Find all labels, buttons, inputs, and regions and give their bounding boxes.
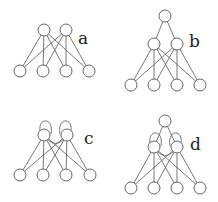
input-node	[171, 182, 183, 194]
input-node	[37, 65, 49, 77]
top-node	[159, 10, 171, 22]
hidden-node	[148, 38, 160, 50]
input-node	[194, 182, 206, 194]
hidden-node	[38, 24, 50, 36]
hidden-node	[171, 141, 183, 153]
input-node	[14, 65, 26, 77]
panel-label: d	[190, 134, 201, 154]
panel-c: c	[14, 121, 96, 181]
edge	[131, 44, 154, 85]
panel-label: b	[189, 31, 200, 51]
panel-d: d	[125, 115, 206, 194]
panel-label: c	[84, 128, 94, 148]
input-node	[83, 65, 95, 77]
edge	[43, 135, 67, 175]
input-node	[194, 79, 206, 91]
hidden-node	[38, 129, 50, 141]
input-node	[148, 79, 160, 91]
panel-a: a	[14, 24, 95, 77]
edge	[20, 135, 44, 175]
hidden-node	[148, 141, 160, 153]
hidden-node	[60, 24, 72, 36]
input-node	[125, 79, 137, 91]
input-node	[171, 79, 183, 91]
network-diagram: abcd	[0, 0, 218, 202]
input-node	[125, 182, 137, 194]
input-node	[14, 169, 26, 181]
input-node	[148, 182, 160, 194]
top-node	[159, 115, 171, 127]
input-node	[84, 169, 96, 181]
edge	[20, 30, 44, 71]
edge	[131, 147, 154, 188]
input-node	[60, 169, 72, 181]
panel-label: a	[78, 28, 88, 48]
panel-b: b	[125, 10, 206, 91]
input-node	[37, 169, 49, 181]
input-node	[60, 65, 72, 77]
hidden-node	[61, 129, 73, 141]
hidden-node	[171, 38, 183, 50]
